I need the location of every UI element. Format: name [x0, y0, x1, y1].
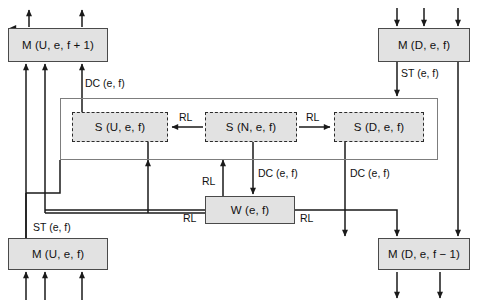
node-s-none-e-f[interactable]: S (N, e, f) — [205, 112, 297, 142]
node-w-e-f[interactable]: W (e, f) — [205, 196, 295, 224]
edge-label-rl-right: RL — [306, 112, 319, 123]
edge-label-dc-top: DC (e, f) — [85, 78, 125, 89]
node-m-up-e-f[interactable]: M (U, e, f) — [8, 238, 108, 270]
edge-label-rl-left: RL — [179, 112, 192, 123]
edge-label-dc-mid: DC (e, f) — [258, 168, 298, 179]
edge-label-st-right: ST (e, f) — [401, 68, 439, 79]
edge-label-rl-w-left: RL — [183, 213, 196, 224]
edge-label-st-left: ST (e, f) — [33, 222, 71, 233]
edge-label-rl-w-right: RL — [300, 213, 313, 224]
node-s-up-e-f[interactable]: S (U, e, f) — [72, 112, 168, 142]
edge-label-rl-up: RL — [202, 176, 215, 187]
node-m-up-e-fplus1[interactable]: M (U, e, f + 1) — [8, 28, 108, 62]
node-s-down-e-f[interactable]: S (D, e, f) — [334, 112, 424, 142]
node-m-down-e-f[interactable]: M (D, e, f) — [378, 28, 470, 62]
node-m-down-e-fminus1[interactable]: M (D, e, f − 1) — [378, 238, 470, 270]
edge-label-dc-right: DC (e, f) — [350, 168, 390, 179]
diagram-canvas: M (U, e, f + 1) M (D, e, f) S (U, e, f) … — [0, 0, 478, 304]
